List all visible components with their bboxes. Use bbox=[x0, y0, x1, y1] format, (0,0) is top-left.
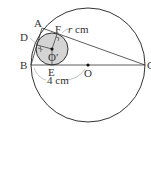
label-4cm: 4 cm bbox=[47, 74, 69, 86]
label-r: r bbox=[68, 23, 73, 35]
label-r-small: r bbox=[40, 46, 43, 54]
label-A: A bbox=[34, 17, 42, 29]
label-cm: cm bbox=[75, 23, 89, 35]
label-C: C bbox=[147, 59, 151, 71]
label-O: O bbox=[84, 67, 92, 79]
label-F: F bbox=[55, 23, 61, 35]
label-B: B bbox=[20, 59, 27, 71]
label-O-prime: O′ bbox=[48, 51, 58, 63]
length-guide-arc-left bbox=[34, 68, 46, 80]
label-D: D bbox=[20, 31, 28, 43]
geometry-diagram: A F r cm D r O′ B E O C 4 cm bbox=[0, 0, 151, 171]
